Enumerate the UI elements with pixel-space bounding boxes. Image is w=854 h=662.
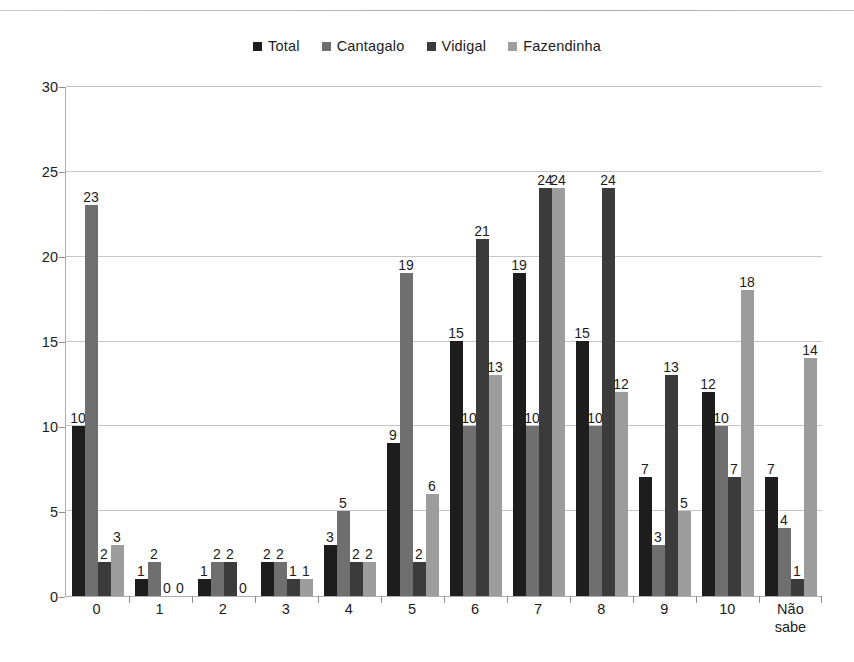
bar-slot: 10 [715,87,728,596]
bar-slot: 13 [489,87,502,596]
x-tick-label-line: 9 [633,600,696,618]
bar-slot: 2 [98,87,111,596]
x-tick-label-line: Não [759,600,822,618]
bar[interactable]: 23 [85,205,98,596]
bar[interactable]: 10 [463,426,476,596]
bar[interactable]: 13 [489,375,502,596]
bar[interactable]: 19 [513,273,526,596]
bar[interactable]: 14 [804,358,817,596]
bar-value-label: 7 [641,462,649,476]
plot-area: 1023231200122022113522919261510211319102… [65,87,822,597]
bar-slot: 10 [589,87,602,596]
bar-value-label: 7 [767,462,775,476]
bar[interactable]: 2 [350,562,363,596]
bar-slot: 1 [300,87,313,596]
bar-value-label: 2 [415,547,423,561]
bar[interactable]: 2 [211,562,224,596]
x-tick-label-line: 6 [443,600,506,618]
bar[interactable]: 12 [615,392,628,596]
bar[interactable]: 5 [678,511,691,596]
bar-slot: 13 [665,87,678,596]
legend-swatch-icon [508,42,517,51]
bar[interactable]: 18 [741,290,754,596]
bar[interactable]: 3 [111,545,124,596]
bar[interactable]: 2 [98,562,111,596]
bar-value-label: 10 [461,411,477,425]
x-tick-label-line: 7 [507,600,570,618]
bar-slot: 0 [161,87,174,596]
bar[interactable]: 2 [413,562,426,596]
bar-group: 3522 [318,87,381,596]
bar-slot: 0 [237,87,250,596]
bar[interactable]: 1 [198,579,211,596]
bar-value-label: 12 [700,377,716,391]
bar[interactable]: 13 [665,375,678,596]
bar[interactable]: 10 [72,426,85,596]
bar-slot: 1 [287,87,300,596]
bar-value-label: 24 [600,173,616,187]
bar[interactable]: 7 [728,477,741,596]
y-tick-label: 25 [18,164,58,180]
bar[interactable]: 24 [602,188,615,596]
bar[interactable]: 4 [778,528,791,596]
bar-slot: 24 [602,87,615,596]
bar[interactable]: 5 [337,511,350,596]
bar[interactable]: 1 [791,579,804,596]
bar[interactable]: 2 [224,562,237,596]
bar[interactable]: 10 [526,426,539,596]
bar[interactable]: 7 [765,477,778,596]
bar-slot: 1 [198,87,211,596]
bar-slot: 7 [728,87,741,596]
legend-item-total[interactable]: Total [253,38,300,54]
bar[interactable]: 24 [552,188,565,596]
bar[interactable]: 19 [400,273,413,596]
bar-value-label: 2 [276,547,284,561]
legend-item-cantagalo[interactable]: Cantagalo [322,38,405,54]
legend-item-fazendinha[interactable]: Fazendinha [508,38,601,54]
bar-slot: 21 [476,87,489,596]
bar-slot: 2 [211,87,224,596]
bar[interactable]: 21 [476,239,489,596]
bar-value-label: 18 [739,275,755,289]
bar-value-label: 2 [100,547,108,561]
bar[interactable]: 7 [639,477,652,596]
bar[interactable]: 2 [363,562,376,596]
bar[interactable]: 2 [274,562,287,596]
bar[interactable]: 9 [387,443,400,596]
bar[interactable]: 2 [261,562,274,596]
x-tick-label-line: 4 [317,600,380,618]
bar[interactable]: 3 [652,545,665,596]
legend-label: Vidigal [442,38,487,54]
y-tick-label: 20 [18,249,58,265]
bar[interactable]: 3 [324,545,337,596]
bar[interactable]: 10 [589,426,602,596]
bar[interactable]: 6 [426,494,439,596]
bar[interactable]: 2 [148,562,161,596]
bar-slot: 2 [261,87,274,596]
bar-group: 102323 [66,87,129,596]
bar[interactable]: 24 [539,188,552,596]
bar[interactable]: 1 [300,579,313,596]
bar[interactable]: 1 [287,579,300,596]
bar[interactable]: 10 [715,426,728,596]
bar-value-label: 2 [263,547,271,561]
legend-swatch-icon [427,42,436,51]
bar-slot: 9 [387,87,400,596]
bar-value-label: 0 [163,581,171,595]
x-tick-label-line: 3 [254,600,317,618]
bar[interactable]: 15 [450,341,463,596]
bar[interactable]: 1 [135,579,148,596]
bar-group: 1200 [129,87,192,596]
bar-group: 73135 [633,87,696,596]
legend-label: Cantagalo [337,38,405,54]
bar-group: 15102412 [570,87,633,596]
bar-slot: 2 [224,87,237,596]
y-tick-mark [59,597,65,598]
x-tick-label: 7 [507,600,570,636]
bar-value-label: 2 [352,547,360,561]
bar-slot: 12 [702,87,715,596]
bar-value-label: 1 [137,564,145,578]
bar-value-label: 7 [730,462,738,476]
legend-item-vidigal[interactable]: Vidigal [427,38,487,54]
bar[interactable]: 15 [576,341,589,596]
